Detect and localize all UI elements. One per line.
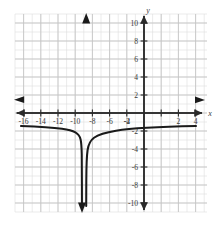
- y-tick-label: 8: [134, 37, 138, 46]
- y-tick-label: 10: [130, 19, 138, 28]
- y-tick-label: 2: [134, 91, 138, 100]
- y-tick-label: 4: [134, 73, 138, 82]
- y-tick-label: 6: [134, 55, 138, 64]
- x-tick-label: 4: [194, 117, 198, 126]
- x-tick-label-neg2: -2: [124, 117, 131, 126]
- x-tick-label: -12: [53, 117, 63, 126]
- coordinate-plane: -16 -14 -12 -10 -8 -6 -4 -2 2 4 -2 10 8 …: [0, 0, 219, 225]
- y-tick-label: -4: [132, 145, 139, 154]
- x-tick-label: -10: [70, 117, 80, 126]
- graph-figure: -16 -14 -12 -10 -8 -6 -4 -2 2 4 -2 10 8 …: [0, 0, 219, 225]
- y-tick-label: -6: [132, 163, 139, 172]
- x-tick-label: -16: [19, 117, 29, 126]
- x-axis-label: x: [207, 109, 212, 118]
- y-tick-label: -8: [132, 181, 139, 190]
- x-tick-label: -14: [36, 117, 46, 126]
- y-axis-label: y: [145, 6, 150, 15]
- x-tick-label: -8: [89, 117, 96, 126]
- x-tick-label: 2: [177, 117, 181, 126]
- x-tick-label: -6: [106, 117, 113, 126]
- y-tick-label: -10: [128, 199, 138, 208]
